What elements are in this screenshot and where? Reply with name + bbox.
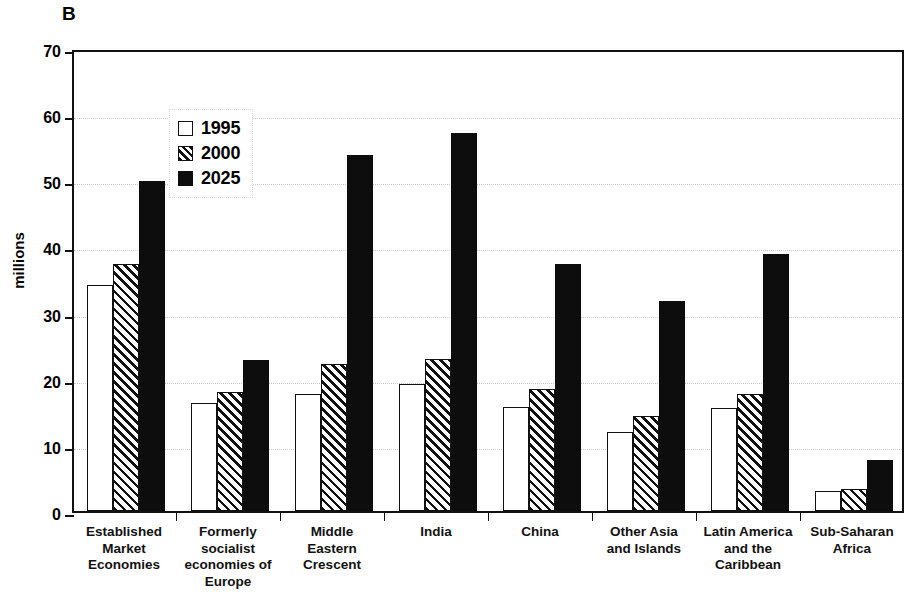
y-axis-tick — [65, 52, 74, 54]
plot-area: 010203040506070 199520002025 — [72, 50, 904, 513]
bar[interactable] — [87, 285, 113, 511]
bar[interactable] — [659, 301, 685, 511]
bar-group — [282, 52, 386, 511]
bar[interactable] — [347, 155, 373, 512]
x-axis-tick — [176, 513, 177, 521]
legend-item[interactable]: 1995 — [178, 116, 240, 141]
y-axis-tick — [65, 515, 74, 517]
bar-group — [74, 52, 178, 511]
bar-group — [386, 52, 490, 511]
x-axis-tick — [280, 513, 281, 521]
bar-group — [802, 52, 906, 511]
y-axis-tick — [65, 317, 74, 319]
x-axis-tick — [384, 513, 385, 521]
y-axis-tick-label: 40 — [43, 241, 61, 259]
x-axis-category-label: Sub-SaharanAfrica — [787, 524, 917, 557]
x-axis-tick — [488, 513, 489, 521]
bar[interactable] — [555, 264, 581, 511]
y-axis-tick — [65, 184, 74, 186]
y-axis-title: millions — [10, 221, 27, 301]
y-axis-tick — [65, 449, 74, 451]
bar-group — [698, 52, 802, 511]
x-axis-category-label-line: Eastern — [267, 541, 397, 558]
y-axis-tick-label: 60 — [43, 109, 61, 127]
bar[interactable] — [425, 359, 451, 511]
bar[interactable] — [633, 416, 659, 511]
bar[interactable] — [503, 407, 529, 511]
x-axis-category-label-line: Europe — [163, 574, 293, 591]
x-axis-category-label-line: Crescent — [267, 557, 397, 574]
bar[interactable] — [217, 392, 243, 511]
legend-swatch — [178, 121, 193, 136]
y-axis-tick-label: 20 — [43, 374, 61, 392]
bar[interactable] — [867, 460, 893, 511]
bar[interactable] — [763, 254, 789, 511]
x-axis-tick — [696, 513, 697, 521]
legend-item[interactable]: 2000 — [178, 141, 240, 166]
panel-label: B — [62, 3, 76, 25]
x-axis-tick — [592, 513, 593, 521]
y-axis-tick-label: 10 — [43, 440, 61, 458]
bar[interactable] — [451, 133, 477, 511]
bar[interactable] — [815, 491, 841, 511]
y-axis-tick — [65, 250, 74, 252]
bar[interactable] — [113, 264, 139, 511]
legend-label: 2025 — [201, 168, 240, 189]
y-axis-tick-label: 70 — [43, 43, 61, 61]
bar[interactable] — [321, 364, 347, 511]
bar[interactable] — [529, 389, 555, 511]
bar[interactable] — [139, 181, 165, 511]
legend-swatch — [178, 171, 193, 186]
bar[interactable] — [607, 432, 633, 511]
bar-group — [490, 52, 594, 511]
bar[interactable] — [711, 408, 737, 511]
y-axis-tick — [65, 383, 74, 385]
figure-panel-b: B millions 010203040506070 199520002025 … — [0, 0, 918, 593]
legend-label: 1995 — [201, 118, 240, 139]
legend-label: 2000 — [201, 143, 240, 164]
x-axis-category-label-line: Sub-Saharan — [787, 524, 917, 541]
bar[interactable] — [737, 394, 763, 511]
bar[interactable] — [191, 403, 217, 511]
legend-item[interactable]: 2025 — [178, 166, 240, 191]
bar[interactable] — [841, 489, 867, 511]
y-axis-tick — [65, 118, 74, 120]
legend: 199520002025 — [169, 109, 253, 198]
legend-swatch — [178, 146, 193, 161]
bar-group — [594, 52, 698, 511]
bar[interactable] — [295, 394, 321, 511]
y-axis-tick-label: 50 — [43, 175, 61, 193]
x-axis-category-label-line: Africa — [787, 541, 917, 558]
x-axis-tick — [800, 513, 801, 521]
y-axis-tick-label: 30 — [43, 308, 61, 326]
bar[interactable] — [399, 384, 425, 511]
y-axis-tick-label: 0 — [52, 506, 61, 524]
bar[interactable] — [243, 360, 269, 511]
x-axis-category-label-line: Caribbean — [683, 557, 813, 574]
